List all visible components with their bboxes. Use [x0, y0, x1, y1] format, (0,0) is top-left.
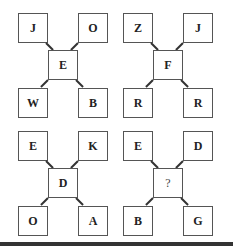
top-left-box: J	[18, 13, 48, 43]
connector-line	[180, 197, 188, 205]
top-left-box: E	[18, 131, 48, 161]
letter: J	[195, 21, 201, 36]
bottom-left-box: W	[18, 88, 48, 118]
connector-line	[75, 79, 83, 87]
letter: E	[134, 139, 142, 154]
top-left-box: E	[123, 131, 153, 161]
center-box: D	[48, 168, 78, 198]
letter: D	[194, 139, 203, 154]
connector-line	[75, 197, 83, 205]
letter: W	[27, 96, 39, 111]
bottom-right-box: R	[183, 88, 213, 118]
center-box-unknown: ?	[153, 168, 183, 198]
letter: J	[30, 21, 36, 36]
top-right-box: J	[183, 13, 213, 43]
puzzle-2: Z J F R R	[123, 13, 218, 117]
letter: A	[89, 214, 98, 229]
connector-line	[145, 79, 153, 87]
bottom-right-box: B	[78, 88, 108, 118]
letter: K	[88, 139, 97, 154]
puzzle-3: E K D O A	[18, 131, 113, 235]
letter: R	[134, 96, 143, 111]
puzzle-1: J O E W B	[18, 13, 113, 117]
bottom-left-box: R	[123, 88, 153, 118]
letter: O	[88, 21, 97, 36]
bottom-divider	[0, 242, 233, 246]
bottom-left-box: O	[18, 206, 48, 236]
letter: E	[59, 58, 67, 73]
letter: B	[89, 96, 97, 111]
connector-line	[145, 197, 153, 205]
bottom-right-box: G	[183, 206, 213, 236]
letter: R	[194, 96, 203, 111]
letter: G	[193, 214, 202, 229]
top-left-box: Z	[123, 13, 153, 43]
letter: O	[28, 214, 37, 229]
letter: B	[134, 214, 142, 229]
center-box: F	[153, 50, 183, 80]
top-right-box: O	[78, 13, 108, 43]
center-box: E	[48, 50, 78, 80]
question-mark: ?	[165, 176, 170, 191]
letter: Z	[134, 21, 142, 36]
connector-line	[40, 197, 48, 205]
letter: D	[59, 176, 68, 191]
top-right-box: K	[78, 131, 108, 161]
puzzle-4: E D ? B G	[123, 131, 218, 235]
connector-line	[180, 79, 188, 87]
bottom-left-box: B	[123, 206, 153, 236]
top-right-box: D	[183, 131, 213, 161]
bottom-right-box: A	[78, 206, 108, 236]
letter: F	[164, 58, 171, 73]
letter: E	[29, 139, 37, 154]
connector-line	[40, 79, 48, 87]
